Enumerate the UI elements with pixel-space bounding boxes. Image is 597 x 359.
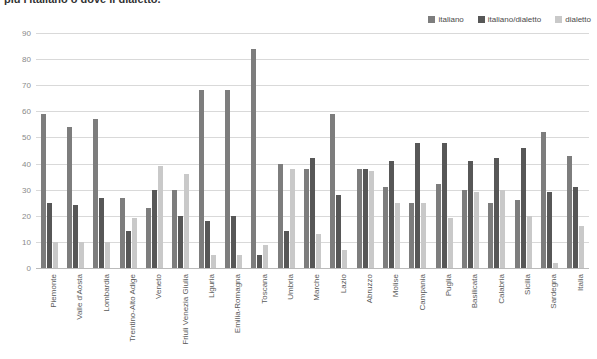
bar[interactable] — [41, 114, 46, 268]
bar[interactable] — [421, 203, 426, 268]
bar[interactable] — [541, 132, 546, 268]
bar[interactable] — [521, 148, 526, 268]
bar[interactable] — [547, 192, 552, 268]
x-axis-label: Sardegna — [549, 274, 558, 309]
x-axis-labels: PiemonteValle d'AostaLombardiaTrentino-A… — [36, 272, 589, 358]
x-axis-label-cell: Italia — [563, 272, 589, 358]
bar-group — [220, 33, 246, 268]
bar[interactable] — [415, 143, 420, 268]
bar[interactable] — [409, 203, 414, 268]
bar[interactable] — [237, 255, 242, 268]
x-axis-label: Puglia — [444, 274, 453, 296]
bar[interactable] — [172, 190, 177, 268]
bar[interactable] — [357, 169, 362, 268]
x-axis-label-cell: Veneto — [141, 272, 167, 358]
x-axis-label-cell: Lombardia — [89, 272, 115, 358]
bar[interactable] — [579, 226, 584, 268]
bar[interactable] — [184, 174, 189, 268]
legend-swatch-italiano — [428, 16, 435, 23]
bar[interactable] — [278, 164, 283, 268]
bar[interactable] — [53, 242, 58, 268]
x-axis-label: Abruzzo — [365, 274, 374, 303]
bar[interactable] — [231, 216, 236, 268]
bar[interactable] — [290, 169, 295, 268]
bar[interactable] — [515, 200, 520, 268]
bar[interactable] — [448, 218, 453, 268]
bar-group — [168, 33, 194, 268]
x-axis-label: Valle d'Aosta — [75, 274, 84, 320]
bar[interactable] — [257, 255, 262, 268]
x-axis-label: Piemonte — [49, 274, 58, 308]
bar[interactable] — [573, 187, 578, 268]
bar[interactable] — [199, 90, 204, 268]
bar[interactable] — [120, 198, 125, 269]
bar[interactable] — [330, 114, 335, 268]
bar[interactable] — [462, 190, 467, 268]
bar[interactable] — [67, 127, 72, 268]
bar-group — [194, 33, 220, 268]
bar-group — [36, 33, 62, 268]
plot-area: 9080706050403020100 — [36, 33, 589, 268]
bar[interactable] — [389, 161, 394, 268]
legend-label-dialetto: dialetto — [565, 15, 591, 24]
bar[interactable] — [567, 156, 572, 268]
bar[interactable] — [304, 169, 309, 268]
bar[interactable] — [442, 143, 447, 268]
x-axis-label: Veneto — [154, 274, 163, 299]
bar[interactable] — [211, 255, 216, 268]
bar-group — [326, 33, 352, 268]
bar[interactable] — [146, 208, 151, 268]
bar[interactable] — [553, 263, 558, 268]
bar[interactable] — [369, 171, 374, 268]
bar[interactable] — [105, 242, 110, 268]
y-tick-label-40: 40 — [22, 159, 31, 168]
x-axis-label-cell: Piemonte — [36, 272, 62, 358]
bar-group — [378, 33, 404, 268]
bar[interactable] — [336, 195, 341, 268]
x-axis-label-cell: Puglia — [431, 272, 457, 358]
bar[interactable] — [79, 242, 84, 268]
bar-group — [115, 33, 141, 268]
x-axis-label: Calabria — [497, 274, 506, 304]
bar-group — [62, 33, 88, 268]
bar[interactable] — [395, 203, 400, 268]
x-axis-label: Molise — [391, 274, 400, 297]
bar[interactable] — [73, 205, 78, 268]
bar[interactable] — [158, 166, 163, 268]
x-axis-label: Italia — [576, 274, 585, 291]
x-axis-label: Trentino-Alto Adige — [128, 274, 137, 342]
bar-group — [247, 33, 273, 268]
bar-group — [273, 33, 299, 268]
bar[interactable] — [436, 184, 441, 268]
bar[interactable] — [494, 158, 499, 268]
bar[interactable] — [316, 234, 321, 268]
bar[interactable] — [500, 190, 505, 268]
bar[interactable] — [93, 119, 98, 268]
legend-item-italiano-dialetto[interactable]: italiano/dialetto — [478, 15, 541, 24]
bar[interactable] — [263, 245, 268, 269]
bar[interactable] — [342, 250, 347, 268]
bar[interactable] — [474, 192, 479, 268]
bar-groups — [36, 33, 589, 268]
x-axis-label-cell: Calabria — [484, 272, 510, 358]
bar[interactable] — [132, 218, 137, 268]
bar[interactable] — [47, 203, 52, 268]
bar[interactable] — [468, 161, 473, 268]
x-axis-label: Toscana — [260, 274, 269, 304]
bar[interactable] — [527, 216, 532, 268]
legend-item-italiano[interactable]: italiano — [428, 15, 463, 24]
bar[interactable] — [225, 90, 230, 268]
bar[interactable] — [284, 231, 289, 268]
legend-item-dialetto[interactable]: dialetto — [555, 15, 591, 24]
bar[interactable] — [251, 49, 256, 268]
bar[interactable] — [363, 169, 368, 268]
legend-label-italiano-dialetto: italiano/dialetto — [488, 15, 541, 24]
bar[interactable] — [488, 203, 493, 268]
bar[interactable] — [383, 187, 388, 268]
bar[interactable] — [205, 221, 210, 268]
bar[interactable] — [178, 216, 183, 268]
bar[interactable] — [152, 190, 157, 268]
bar[interactable] — [99, 198, 104, 269]
bar[interactable] — [126, 231, 131, 268]
bar[interactable] — [310, 158, 315, 268]
